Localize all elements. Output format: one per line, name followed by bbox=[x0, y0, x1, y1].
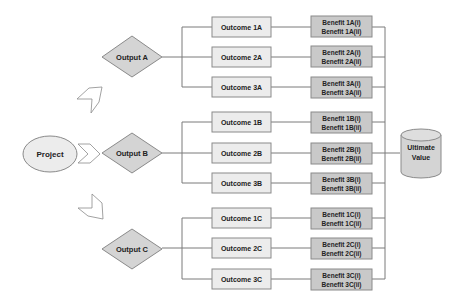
outcome-1c: Outcome 1C bbox=[212, 208, 271, 228]
output-a-label: Output A bbox=[116, 53, 148, 62]
benefit-3c-ii: Benefit 3C(ii) bbox=[321, 281, 361, 289]
ultimate-value-line2: Value bbox=[412, 154, 430, 161]
benefit-1a-i: Benefit 1A(i) bbox=[322, 19, 360, 27]
benefit-3b-i: Benefit 3B(i) bbox=[322, 176, 360, 184]
benefit-2b: Benefit 2B(i) Benefit 2B(ii) bbox=[311, 143, 372, 164]
output-b-label: Output B bbox=[116, 149, 149, 158]
benefit-3c-i: Benefit 3C(i) bbox=[322, 272, 360, 280]
outcome-3b: Outcome 3B bbox=[212, 173, 271, 193]
arrow-down-right-icon bbox=[78, 194, 103, 219]
project-label: Project bbox=[36, 150, 63, 159]
outcome-2c: Outcome 2C bbox=[212, 238, 271, 258]
outcome-3c: Outcome 3C bbox=[212, 269, 271, 289]
benefit-2b-ii: Benefit 2B(ii) bbox=[321, 155, 361, 163]
outcome-3b-label: Outcome 3B bbox=[221, 180, 262, 187]
outcome-2b-label: Outcome 2B bbox=[221, 150, 262, 157]
chevron-right-arrow-icon bbox=[78, 144, 100, 163]
benefit-2b-i: Benefit 2B(i) bbox=[322, 146, 360, 154]
benefit-3b: Benefit 3B(i) Benefit 3B(ii) bbox=[311, 173, 372, 194]
benefit-2c-i: Benefit 2C(i) bbox=[322, 241, 360, 249]
benefit-3a-ii: Benefit 3A(ii) bbox=[321, 89, 361, 97]
outcome-2c-label: Outcome 2C bbox=[221, 245, 262, 252]
benefit-3b-ii: Benefit 3B(ii) bbox=[321, 185, 361, 193]
value-chain-diagram: Project Output A Output B Output C Outco… bbox=[0, 0, 462, 302]
outcome-1b-label: Outcome 1B bbox=[221, 119, 262, 126]
benefit-1b-ii: Benefit 1B(ii) bbox=[321, 124, 361, 132]
benefit-3a-i: Benefit 3A(i) bbox=[322, 80, 360, 88]
benefit-2c-ii: Benefit 2C(ii) bbox=[321, 250, 361, 258]
project-node: Project bbox=[23, 136, 77, 172]
output-c-node: Output C bbox=[102, 229, 162, 269]
outcome-1c-label: Outcome 1C bbox=[221, 215, 262, 222]
benefit-1a: Benefit 1A(i) Benefit 1A(ii) bbox=[311, 16, 372, 37]
benefit-1c-i: Benefit 1C(i) bbox=[322, 211, 360, 219]
benefit-1c-ii: Benefit 1C(ii) bbox=[321, 220, 361, 228]
benefit-1a-ii: Benefit 1A(ii) bbox=[321, 28, 361, 36]
output-a-node: Output A bbox=[102, 36, 162, 77]
outcome-1b: Outcome 1B bbox=[212, 112, 271, 132]
outcome-boxes: Outcome 1A Outcome 2A Outcome 3A Outcome… bbox=[212, 17, 271, 289]
benefit-1c: Benefit 1C(i) Benefit 1C(ii) bbox=[311, 208, 372, 229]
outcome-2a-label: Outcome 2A bbox=[221, 54, 262, 61]
outcome-3a: Outcome 3A bbox=[212, 77, 271, 97]
benefit-1b: Benefit 1B(i) Benefit 1B(ii) bbox=[311, 112, 372, 133]
ultimate-value-node: Ultimate Value bbox=[401, 129, 441, 178]
outcome-3c-label: Outcome 3C bbox=[221, 276, 262, 283]
arrow-up-right-icon bbox=[77, 87, 102, 113]
outcome-1a: Outcome 1A bbox=[212, 17, 271, 37]
benefit-2a-i: Benefit 2A(i) bbox=[322, 49, 360, 57]
output-b-node: Output B bbox=[102, 133, 162, 173]
outcome-2b: Outcome 2B bbox=[212, 143, 271, 163]
benefit-2c: Benefit 2C(i) Benefit 2C(ii) bbox=[311, 238, 372, 259]
benefit-2a: Benefit 2A(i) Benefit 2A(ii) bbox=[311, 46, 372, 67]
benefit-boxes: Benefit 1A(i) Benefit 1A(ii) Benefit 2A(… bbox=[311, 16, 372, 290]
output-c-label: Output C bbox=[116, 245, 149, 254]
outcome-2a: Outcome 2A bbox=[212, 47, 271, 67]
benefit-3c: Benefit 3C(i) Benefit 3C(ii) bbox=[311, 269, 372, 290]
benefit-2a-ii: Benefit 2A(ii) bbox=[321, 58, 361, 66]
benefit-1b-i: Benefit 1B(i) bbox=[322, 115, 360, 123]
outcome-1a-label: Outcome 1A bbox=[221, 24, 262, 31]
outcome-3a-label: Outcome 3A bbox=[221, 84, 262, 91]
ultimate-value-line1: Ultimate bbox=[407, 144, 435, 151]
benefit-3a: Benefit 3A(i) Benefit 3A(ii) bbox=[311, 77, 372, 98]
